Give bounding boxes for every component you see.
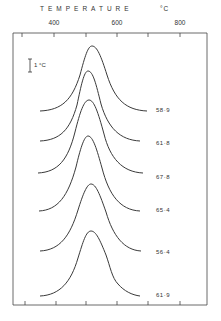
curve-2 [40, 71, 140, 141]
curve-label-4: 65·4 [156, 207, 170, 213]
tick-label-400: 400 [49, 19, 60, 26]
curve-6 [40, 231, 140, 296]
bottom-ticks [25, 301, 180, 305]
curve-label-1: 58·9 [156, 107, 170, 113]
curve-label-5: 56·4 [156, 249, 170, 255]
plot-frame [13, 33, 207, 305]
scale-bar-label: 1 °C [34, 62, 46, 68]
scale-bar-icon [28, 59, 32, 72]
curve-3 [38, 100, 143, 173]
x-axis-title: TEMPERATURE [40, 5, 133, 12]
curve-label-2: 61·8 [156, 140, 170, 146]
top-ticks [22, 33, 180, 37]
curve-label-6: 61·9 [156, 292, 170, 298]
curve-4 [39, 136, 140, 211]
curves [38, 46, 147, 296]
x-axis-unit: °C [160, 5, 169, 12]
plot-area [0, 0, 221, 321]
tick-label-600: 600 [112, 19, 123, 26]
tick-label-800: 800 [175, 19, 186, 26]
curve-label-3: 67·8 [156, 174, 170, 180]
curve-5 [40, 184, 141, 251]
